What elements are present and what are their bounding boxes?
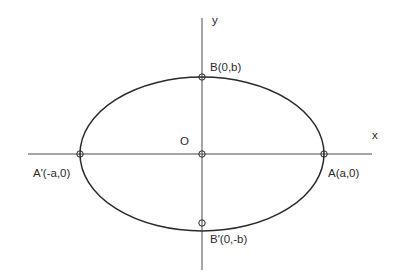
point-b-label: B(0,b) [210,61,241,73]
point-b-prime-label: B'(0,-b) [210,233,248,245]
x-axis-label: x [372,129,378,141]
origin-label: O [180,135,189,147]
ellipse-diagram: y x O B(0,b) B'(0,-b) A'(-a,0) A(a,0) [0,0,403,279]
point-a-prime-label: A'(-a,0) [33,167,71,179]
y-axis-label: y [212,14,218,26]
point-a-label: A(a,0) [328,167,359,179]
